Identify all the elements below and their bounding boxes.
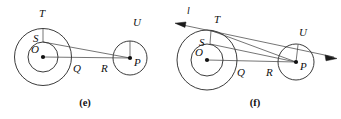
center-dot-p bbox=[294, 60, 298, 64]
geometry-figure-root: T S O Q R P U (e) l T S O Q R bbox=[0, 0, 341, 119]
center-dot-o bbox=[205, 58, 209, 62]
arrowhead-right-icon bbox=[325, 55, 337, 61]
label-r: R bbox=[100, 62, 108, 74]
label-o: O bbox=[195, 46, 203, 58]
label-u: U bbox=[133, 16, 142, 28]
label-q: Q bbox=[237, 66, 245, 78]
segment-t-s bbox=[210, 31, 211, 45]
label-q: Q bbox=[73, 62, 81, 74]
arrowhead-left-icon bbox=[175, 22, 186, 27]
center-dot-p bbox=[128, 56, 132, 60]
segment-o-p bbox=[43, 57, 130, 58]
label-line-l: l bbox=[187, 5, 190, 16]
panel-f: l T S O Q R P U (f) bbox=[170, 0, 341, 119]
label-t: T bbox=[39, 7, 46, 19]
label-p: P bbox=[299, 60, 307, 72]
panel-e: T S O Q R P U (e) bbox=[0, 0, 170, 119]
caption-f: (f) bbox=[250, 97, 261, 109]
label-u: U bbox=[299, 26, 308, 38]
caption-e: (e) bbox=[79, 97, 91, 109]
center-dot-o bbox=[41, 55, 45, 59]
label-t: T bbox=[214, 13, 221, 25]
label-p: P bbox=[133, 56, 141, 68]
segment-o-p bbox=[207, 60, 296, 62]
label-r: R bbox=[265, 66, 273, 78]
segment-u-p bbox=[296, 45, 298, 62]
label-o: O bbox=[31, 43, 39, 55]
